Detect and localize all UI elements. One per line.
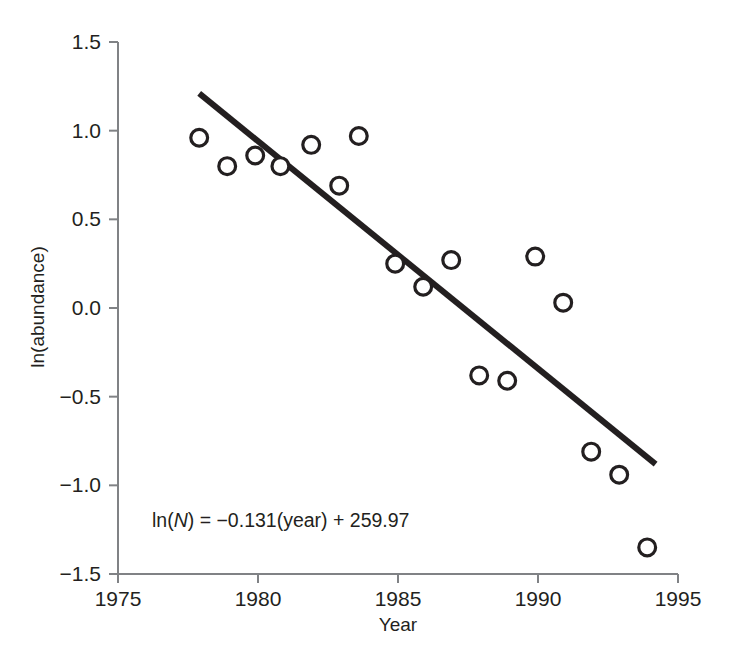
y-tick-label: 0.5 [72,207,101,230]
data-point [499,372,516,389]
data-point [247,147,264,164]
data-point [219,158,236,175]
x-tick-label: 1990 [515,587,562,610]
data-point [639,539,656,556]
y-tick-label: 1.0 [72,119,101,142]
data-point [331,177,348,194]
x-axis-title: Year [379,614,418,635]
chart-background [0,0,733,658]
x-tick-label: 1975 [95,587,142,610]
regression-equation-label: ln(N) = −0.131(year) + 259.97 [152,509,409,531]
data-point [443,252,460,269]
y-tick-label: 1.5 [72,30,101,53]
y-tick-label: −0.5 [60,385,101,408]
scatter-chart: 1.51.00.50.0−0.5−1.0−1.5 ln(abundance) 1… [0,0,733,658]
x-tick-label: 1985 [375,587,422,610]
x-tick-label: 1980 [235,587,282,610]
y-tick-label: −1.0 [60,473,101,496]
data-point [303,136,320,153]
data-point [191,129,208,146]
x-tick-label: 1995 [655,587,702,610]
data-point [555,294,572,311]
data-point [272,158,289,175]
chart-canvas: 1.51.00.50.0−0.5−1.0−1.5 ln(abundance) 1… [0,0,733,658]
data-point [350,128,367,145]
y-tick-label: −1.5 [60,562,101,585]
data-point [527,248,544,265]
data-point [387,255,404,272]
data-point [583,443,600,460]
data-point [471,367,488,384]
data-point [415,278,432,295]
data-point [611,466,628,483]
y-tick-label: 0.0 [72,296,101,319]
y-axis-title: ln(abundance) [27,246,48,367]
